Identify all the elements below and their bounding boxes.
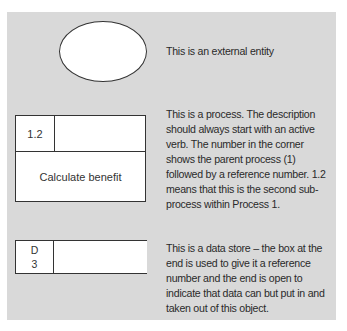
external-entity-ellipse (59, 21, 147, 82)
process-label: Calculate benefit (16, 152, 145, 201)
data-store-description: This is a data store – the box at the en… (166, 241, 331, 316)
data-store-reference: D 3 (16, 241, 54, 273)
data-store-letter: D (16, 243, 53, 257)
data-store-box: D 3 (15, 240, 147, 274)
process-description: This is a process. The description shoul… (166, 107, 331, 212)
data-store-number: 3 (16, 257, 53, 271)
external-entity-description: This is an external entity (166, 44, 331, 59)
process-reference: 1.2 (16, 116, 55, 151)
process-header: 1.2 (16, 116, 145, 152)
process-box: 1.2 Calculate benefit (15, 115, 146, 202)
